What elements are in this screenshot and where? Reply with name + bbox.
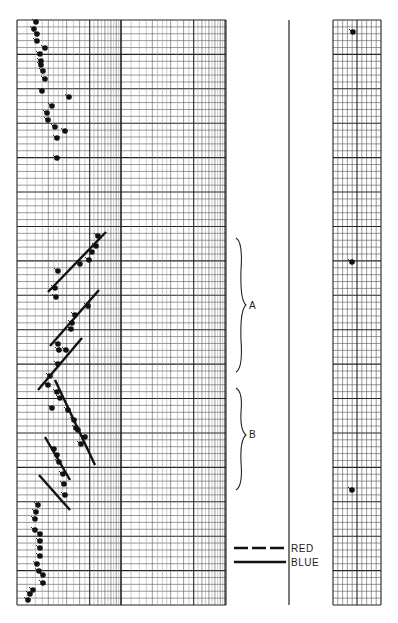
legend-blue-label: BLUE xyxy=(291,557,319,568)
main-log-grid xyxy=(17,20,226,605)
brace-a-label: A xyxy=(249,300,256,311)
chart-figure: A B RED BLUE xyxy=(0,0,398,623)
brace-a: A xyxy=(236,238,256,372)
right-strip-grid xyxy=(333,20,381,605)
brace-b: B xyxy=(236,388,256,490)
brace-b-label: B xyxy=(249,429,256,440)
legend: RED BLUE xyxy=(234,543,319,568)
legend-red-label: RED xyxy=(291,543,314,554)
